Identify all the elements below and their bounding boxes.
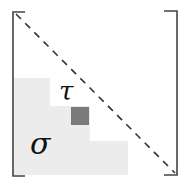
tau-label: τ [59, 76, 74, 106]
highlight-cell [71, 107, 89, 125]
right-bracket [164, 11, 177, 175]
sigma-label: σ [30, 126, 52, 161]
matrix-diagram: τ σ [0, 0, 189, 190]
